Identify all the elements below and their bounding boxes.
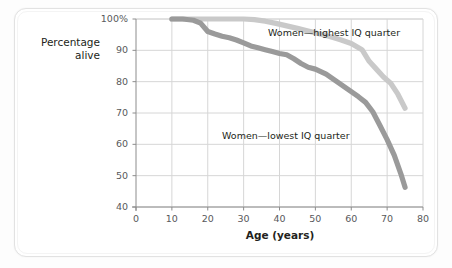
annotation-highest-iq: Women—highest IQ quarter — [268, 27, 400, 38]
series-lines — [172, 19, 405, 187]
x-tick-label: 40 — [268, 213, 292, 224]
x-tick-label: 30 — [232, 213, 256, 224]
x-axis-title: Age (years) — [136, 229, 424, 241]
series-line-lowest-iq — [172, 19, 405, 187]
axis-ticks — [133, 19, 424, 211]
x-tick-label: 80 — [411, 213, 435, 224]
annotation-lowest-iq: Women—lowest IQ quarter — [222, 130, 350, 141]
x-tick-label: 0 — [124, 213, 148, 224]
y-tick-label: 40 — [94, 201, 128, 212]
y-tick-label: 50 — [94, 170, 128, 181]
screenshot-root: Percentage alive 100%908070605040 010203… — [0, 0, 452, 268]
axis-lines — [132, 19, 423, 211]
x-tick-label: 20 — [196, 213, 220, 224]
y-tick-label: 90 — [94, 44, 128, 55]
x-tick-label: 10 — [160, 213, 184, 224]
grid-lines — [136, 19, 423, 207]
y-tick-label: 80 — [94, 76, 128, 87]
x-tick-label: 60 — [339, 213, 363, 224]
x-tick-label: 50 — [303, 213, 327, 224]
y-tick-label: 100% — [94, 13, 128, 24]
y-tick-label: 70 — [94, 107, 128, 118]
y-tick-label: 60 — [94, 138, 128, 149]
x-tick-label: 70 — [375, 213, 399, 224]
